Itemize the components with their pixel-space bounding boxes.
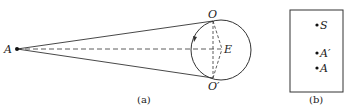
caption-a: (a) xyxy=(137,94,151,105)
point-A-b xyxy=(315,66,318,69)
figure-b: S A′ A (b) xyxy=(290,10,343,105)
line-A-O-prime xyxy=(17,49,213,78)
circle xyxy=(191,20,251,80)
dashed-O-E xyxy=(213,21,222,49)
rotation-arrow-icon xyxy=(193,36,197,42)
label-O-prime: O′ xyxy=(208,80,220,93)
figure-a: A O O′ E (a) xyxy=(3,8,251,105)
frame-box xyxy=(290,10,343,92)
label-O: O xyxy=(208,8,217,21)
point-S xyxy=(315,23,318,26)
point-A-prime xyxy=(315,51,318,54)
label-S: S xyxy=(320,19,328,32)
label-A-b: A xyxy=(319,62,328,75)
label-A-prime: A′ xyxy=(319,47,331,60)
label-A: A xyxy=(3,43,12,56)
dashed-O-prime-E xyxy=(213,49,222,78)
diagram-canvas: A O O′ E (a) S A′ A (b) xyxy=(0,0,348,108)
point-A xyxy=(15,47,19,51)
caption-b: (b) xyxy=(309,94,323,105)
label-E: E xyxy=(223,43,232,56)
line-A-O xyxy=(17,21,213,49)
